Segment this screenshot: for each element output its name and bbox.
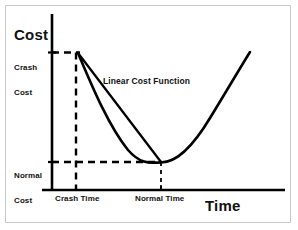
linear-cost-function-line — [78, 53, 161, 162]
actual-cost-curve — [78, 52, 250, 163]
crash-cost-label-line2: Cost — [14, 89, 37, 97]
y-axis-title: Cost — [14, 27, 48, 43]
y-tick-label-normal-cost: Normal Cost — [14, 155, 42, 222]
crash-cost-label-line1: Crash — [14, 64, 37, 72]
x-tick-label-normal-time: Normal Time — [135, 195, 184, 203]
x-axis-title: Time — [205, 198, 241, 214]
linear-cost-function-annotation: Linear Cost Function — [103, 77, 190, 86]
normal-cost-label-line1: Normal — [14, 172, 42, 180]
y-tick-label-crash-cost: Crash Cost — [14, 47, 37, 114]
normal-cost-label-line2: Cost — [14, 197, 42, 205]
chart-container: Cost Time Crash Cost Normal Cost Crash T… — [0, 0, 298, 230]
x-tick-label-crash-time: Crash Time — [55, 195, 99, 203]
